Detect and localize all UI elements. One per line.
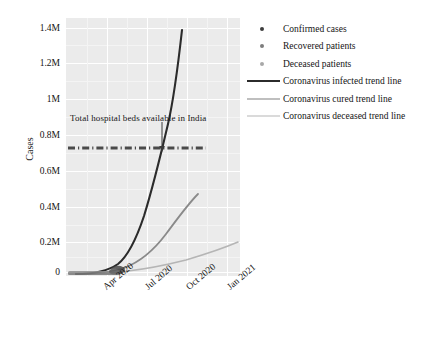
legend-item-deceased-patients[interactable]: Deceased patients [247, 55, 423, 73]
legend-label: Coronavirus cured trend line [281, 94, 392, 104]
legend-key-dot [247, 55, 281, 73]
legend-item-confirmed-cases[interactable]: Confirmed cases [247, 20, 423, 38]
legend-label: Coronavirus deceased trend line [281, 111, 405, 121]
legend-label: Coronavirus infected trend line [281, 76, 401, 86]
legend-item-recovered-patients[interactable]: Recovered patients [247, 38, 423, 56]
legend-key-line [247, 73, 281, 91]
x-tick-label: Apr 2020 [101, 261, 135, 292]
legend-key-line [247, 90, 281, 108]
chart-legend: Confirmed cases Recovered patients Decea… [247, 20, 423, 125]
x-tick-label: Jul 2020 [143, 263, 174, 292]
chart-figure: Cases 1.4M 1.2M 1M 0.8M 0.6M 0.4M 0.2M 0 [0, 0, 425, 338]
legend-key-dot [247, 20, 281, 38]
legend-label: Recovered patients [281, 41, 356, 51]
legend-item-deceased-trend-line[interactable]: Coronavirus deceased trend line [247, 108, 423, 126]
legend-item-cured-trend-line[interactable]: Coronavirus cured trend line [247, 90, 423, 108]
legend-label: Confirmed cases [281, 24, 347, 34]
legend-label: Deceased patients [281, 59, 351, 69]
legend-key-dot [247, 38, 281, 56]
legend-item-infected-trend-line[interactable]: Coronavirus infected trend line [247, 73, 423, 91]
x-tick-label: Jan 2021 [225, 262, 258, 292]
legend-key-line [247, 108, 281, 126]
x-tick-label: Oct 2020 [184, 261, 217, 291]
